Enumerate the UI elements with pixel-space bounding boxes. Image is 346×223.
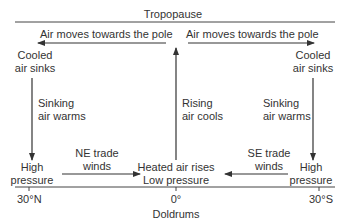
latitude-30s: 30°S — [309, 193, 333, 206]
latitude-0: 0° — [161, 193, 191, 206]
high-pressure-left: High pressure — [10, 161, 54, 187]
sinking-air-warms-left-line1: Sinking — [38, 97, 86, 110]
cooled-air-sinks-left-line2: air sinks — [12, 62, 58, 75]
tropopause-label: Tropopause — [123, 8, 223, 21]
poleward-label-left: Air moves towards the pole — [40, 28, 173, 41]
doldrums-label: Doldrums — [136, 208, 216, 221]
cooled-air-sinks-right-line1: Cooled — [290, 49, 336, 62]
cooled-air-sinks-right: Cooled air sinks — [290, 49, 336, 75]
rising-air-cools: Rising air cools — [182, 97, 223, 123]
ne-trade-winds-line2: winds — [72, 160, 122, 173]
heated-air-rises-line: Heated air rises — [136, 161, 216, 174]
high-pressure-left-line1: High — [10, 161, 54, 174]
sinking-air-warms-left: Sinking air warms — [38, 97, 86, 123]
latitude-30n: 30°N — [17, 193, 42, 206]
high-pressure-left-line2: pressure — [10, 174, 54, 187]
ne-trade-winds-label: NE trade winds — [72, 147, 122, 173]
sinking-air-warms-right-line1: Sinking — [263, 97, 311, 110]
se-trade-winds-label: SE trade winds — [244, 147, 294, 173]
cooled-air-sinks-left-line1: Cooled — [12, 49, 58, 62]
sinking-air-warms-left-line2: air warms — [38, 110, 86, 123]
se-trade-winds-line2: winds — [244, 160, 294, 173]
ne-trade-winds-line1: NE trade — [72, 147, 122, 160]
high-pressure-right: High pressure — [289, 161, 333, 187]
sinking-air-warms-right-line2: air warms — [263, 110, 311, 123]
cooled-air-sinks-left: Cooled air sinks — [12, 49, 58, 75]
rising-air-cools-line1: Rising — [182, 97, 223, 110]
se-trade-winds-line1: SE trade — [244, 147, 294, 160]
high-pressure-right-line1: High — [289, 161, 333, 174]
high-pressure-right-line2: pressure — [289, 174, 333, 187]
heated-air-low-pressure: Heated air rises Low pressure — [136, 161, 216, 187]
sinking-air-warms-right: Sinking air warms — [263, 97, 311, 123]
low-pressure-line: Low pressure — [136, 174, 216, 187]
poleward-label-right: Air moves towards the pole — [186, 28, 319, 41]
cooled-air-sinks-right-line2: air sinks — [290, 62, 336, 75]
rising-air-cools-line2: air cools — [182, 110, 223, 123]
